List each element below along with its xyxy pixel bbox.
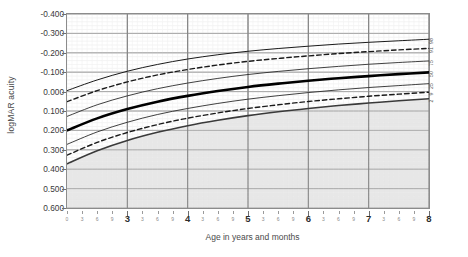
series-label-98: 98 (428, 38, 434, 44)
x-tick-label: 9 (232, 216, 235, 222)
series-end-labels: 989175502592 (431, 13, 465, 209)
x-tick-mark (399, 211, 400, 214)
x-tick-mark (414, 211, 415, 214)
x-tick-mark (233, 211, 234, 214)
x-tick-label: 0 (66, 216, 69, 222)
y-tick-label: 0.100 (20, 106, 64, 116)
x-tick-label: 6 (306, 213, 311, 224)
x-tick-label: 3 (262, 216, 265, 222)
x-tick-label: 7 (366, 213, 371, 224)
x-tick-mark (67, 211, 68, 214)
y-tick-label: -0.400 (20, 9, 64, 19)
x-tick-label: 6 (216, 216, 219, 222)
y-tick-label: 0.200 (20, 125, 64, 135)
y-tick-label: 0.500 (20, 184, 64, 194)
x-tick-label: 3 (141, 216, 144, 222)
x-tick-mark (158, 211, 159, 214)
y-tick-label: -0.100 (20, 67, 64, 77)
series-label-2: 2 (428, 99, 434, 102)
plot-canvas (67, 14, 429, 208)
series-label-50: 50 (428, 72, 434, 78)
x-tick-mark (263, 211, 264, 214)
y-tick-label: -0.300 (20, 28, 64, 38)
x-tick-mark (339, 211, 340, 214)
y-axis-tick-labels: -0.400-0.300-0.200-0.1000.0000.1000.2000… (14, 13, 64, 209)
x-tick-label: 3 (201, 216, 204, 222)
x-tick-label: 5 (245, 213, 250, 224)
x-tick-label: 6 (277, 216, 280, 222)
x-tick-label: 9 (413, 216, 416, 222)
x-axis-tick-labels: 0369369369369369369345678 (66, 211, 430, 227)
x-tick-label: 3 (322, 216, 325, 222)
x-tick-label: 9 (292, 216, 295, 222)
x-tick-label: 4 (185, 213, 190, 224)
x-tick-label: 9 (352, 216, 355, 222)
x-tick-label: 3 (125, 213, 130, 224)
x-tick-mark (82, 211, 83, 214)
x-tick-mark (218, 211, 219, 214)
x-tick-mark (97, 211, 98, 214)
x-tick-mark (354, 211, 355, 214)
series-label-25: 25 (428, 83, 434, 89)
x-tick-mark (384, 211, 385, 214)
x-tick-mark (293, 211, 294, 214)
series-label-75: 75 (428, 60, 434, 66)
x-tick-label: 6 (397, 216, 400, 222)
x-tick-mark (203, 211, 204, 214)
series-label-91: 91 (428, 47, 434, 53)
x-tick-mark (323, 211, 324, 214)
x-tick-mark (173, 211, 174, 214)
y-tick-label: 0.300 (20, 145, 64, 155)
x-tick-label: 8 (426, 213, 431, 224)
x-tick-label: 6 (96, 216, 99, 222)
x-tick-label: 3 (382, 216, 385, 222)
x-tick-label: 9 (111, 216, 114, 222)
chart-root: logMAR acuity -0.400-0.300-0.200-0.1000.… (0, 0, 468, 257)
y-tick-label: 0.600 (20, 203, 64, 213)
y-tick-label: -0.200 (20, 48, 64, 58)
series-label-9: 9 (428, 93, 434, 96)
x-tick-mark (278, 211, 279, 214)
x-tick-label: 9 (171, 216, 174, 222)
x-tick-mark (112, 211, 113, 214)
x-tick-label: 6 (337, 216, 340, 222)
x-tick-label: 6 (156, 216, 159, 222)
plot-area (66, 13, 430, 209)
x-tick-label: 3 (81, 216, 84, 222)
y-tick-label: 0.000 (20, 87, 64, 97)
x-axis-title: Age in years and months (66, 232, 439, 242)
x-tick-mark (142, 211, 143, 214)
y-tick-label: 0.400 (20, 164, 64, 174)
